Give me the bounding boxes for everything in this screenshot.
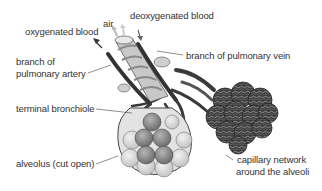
alveolar-sac (118, 108, 192, 177)
label-branch-pulmonary-artery-line1: branch of (16, 56, 55, 67)
label-terminal-bronchiole: terminal bronchiole (16, 103, 94, 114)
bronchiole-tube (115, 36, 170, 102)
alveoli-diagram: air deoxygenated blood oxygenated blood … (0, 0, 322, 191)
label-oxygenated-blood: oxygenated blood (25, 26, 98, 37)
label-capillary-network-line1: capillary network (237, 154, 306, 165)
label-branch-pulmonary-artery-line2: pulmonary artery (16, 68, 86, 79)
label-alveolus-cut-open: alveolus (cut open) (16, 158, 94, 169)
label-capillary-network-line2: around the alveoli (236, 166, 309, 177)
label-air: air (103, 18, 113, 29)
label-branch-pulmonary-vein: branch of pulmonary vein (186, 50, 290, 61)
capillary-network (206, 82, 278, 154)
label-deoxygenated-blood: deoxygenated blood (130, 10, 214, 21)
air-arrows-icon (112, 24, 126, 36)
oxygenated-blood-arrow-icon (93, 38, 102, 48)
deoxygenated-blood-arrow-icon (137, 30, 143, 41)
